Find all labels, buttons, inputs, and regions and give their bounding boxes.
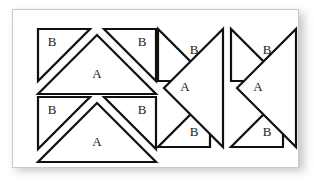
figure-root: BBABBABBABBA [0, 0, 314, 186]
group-right-a-triangle-label: A [253, 79, 263, 94]
group-bottom-left-b-triangle-left-label: B [48, 102, 57, 117]
group-top-left-a-triangle-label: A [92, 66, 102, 81]
group-top-left: BBA [38, 29, 156, 94]
triangle-diagram: BBABBABBABBA [12, 9, 299, 168]
group-top-left-b-triangle-left-label: B [48, 34, 57, 49]
group-middle: BBA [158, 29, 223, 147]
group-bottom-left-b-triangle-right-label: B [138, 102, 147, 117]
group-bottom-left-a-triangle-label: A [92, 134, 102, 149]
group-top-left-b-triangle-right-label: B [138, 34, 147, 49]
group-right-b-triangle-bottom-label: B [263, 124, 272, 139]
group-right: BBA [231, 29, 296, 147]
group-bottom-left: BBA [38, 97, 156, 162]
group-middle-b-triangle-bottom-label: B [190, 124, 199, 139]
group-middle-a-triangle-label: A [180, 79, 190, 94]
